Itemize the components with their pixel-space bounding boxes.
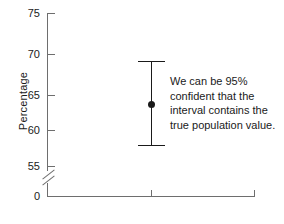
annotation-text: We can be 95% confident that the interva… <box>170 74 282 132</box>
confidence-interval-chart: 75 70 65 60 55 0 Percentage We can be 95… <box>0 0 284 224</box>
axis-break-icon <box>40 168 58 186</box>
annotation-line-1: We can be 95% <box>170 74 282 89</box>
y-tick-label-55: 55 <box>14 161 40 172</box>
y-tick-60 <box>48 130 55 131</box>
x-tick-right <box>254 190 255 197</box>
y-tick-label-75: 75 <box>14 8 40 19</box>
y-tick-70 <box>48 54 55 55</box>
point-estimate-marker <box>148 101 155 108</box>
y-tick-75 <box>48 13 55 14</box>
annotation-line-3: interval contains the <box>170 103 282 118</box>
x-tick-center <box>151 190 152 197</box>
y-tick-label-0: 0 <box>14 191 40 202</box>
annotation-line-2: confident that the <box>170 89 282 104</box>
errorbar-lower-cap <box>138 145 165 146</box>
y-tick-65 <box>48 95 55 96</box>
annotation-line-4: true population value. <box>170 118 282 133</box>
y-tick-55 <box>48 166 55 167</box>
y-axis-title: Percentage <box>17 46 29 156</box>
